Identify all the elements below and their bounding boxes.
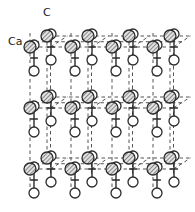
calcium-atom-front-1 (65, 41, 77, 53)
calcium-atom-back-6 (123, 91, 135, 103)
calcium-atom-back-2 (123, 30, 135, 42)
oxygen-atom-b-bot-4 (29, 127, 39, 137)
calcium-atom-back-7 (164, 91, 176, 103)
oxygen-atom-b-bot-10 (111, 188, 121, 198)
oxygen-atom-b-bot-2 (111, 66, 121, 76)
oxygen-atom-b-bot-9 (70, 188, 80, 198)
label-ca: Ca (8, 35, 22, 48)
oxygen-atom-b-bot-6 (111, 127, 121, 137)
calcium-atom-back-8 (41, 152, 53, 164)
calcium-atom-back-11 (164, 152, 176, 164)
oxygen-atom-f-bot-1 (87, 55, 97, 65)
calcium-atom-front-7 (147, 102, 159, 114)
oxygen-atom-f-bot-10 (128, 177, 138, 187)
oxygen-atom-f-bot-2 (128, 55, 138, 65)
calcium-atom-front-6 (106, 102, 118, 114)
calcium-atom-back-10 (123, 152, 135, 164)
calcium-atom-front-11 (147, 163, 159, 175)
calcium-atom-back-4 (41, 91, 53, 103)
oxygen-atom-f-bot-4 (46, 116, 56, 126)
structure-canvas: CCa (0, 0, 195, 212)
calcium-atom-front-0 (24, 41, 36, 53)
oxygen-atom-b-bot-5 (70, 127, 80, 137)
calcium-atom-front-4 (24, 102, 36, 114)
calcium-atom-back-5 (82, 91, 94, 103)
oxygen-atom-b-bot-8 (29, 188, 39, 198)
oxygen-atom-b-bot-1 (70, 66, 80, 76)
calcium-atom-back-9 (82, 152, 94, 164)
oxygen-atom-f-bot-7 (169, 116, 179, 126)
oxygen-atom-f-bot-9 (87, 177, 97, 187)
oxygen-atom-b-bot-11 (152, 188, 162, 198)
calcium-atom-front-8 (24, 163, 36, 175)
calcium-atom-back-3 (164, 30, 176, 42)
oxygen-atom-b-bot-7 (152, 127, 162, 137)
calcium-atom-front-5 (65, 102, 77, 114)
label-c: C (43, 6, 51, 19)
calcium-atom-back-1 (82, 30, 94, 42)
oxygen-atom-b-bot-3 (152, 66, 162, 76)
oxygen-atom-f-bot-11 (169, 177, 179, 187)
crystal-structure-figure: CCa (0, 0, 195, 212)
calcium-atom-front-2 (106, 41, 118, 53)
oxygen-atom-f-bot-6 (128, 116, 138, 126)
calcium-atom-front-10 (106, 163, 118, 175)
oxygen-atom-b-bot-0 (29, 66, 39, 76)
calcium-atom-front-9 (65, 163, 77, 175)
oxygen-atom-f-bot-3 (169, 55, 179, 65)
oxygen-atom-f-bot-0 (46, 55, 56, 65)
oxygen-atom-f-bot-5 (87, 116, 97, 126)
calcium-atom-front-3 (147, 41, 159, 53)
oxygen-atom-f-bot-8 (46, 177, 56, 187)
